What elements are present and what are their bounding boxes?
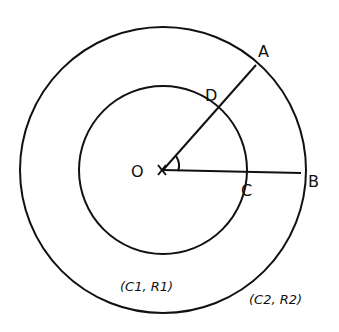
- label-inner-circle: (C1, R1): [120, 279, 173, 294]
- angle-arc: [176, 156, 179, 171]
- label-C: C: [241, 181, 252, 200]
- label-B: B: [308, 172, 319, 191]
- label-D: D: [205, 86, 217, 105]
- concentric-circles-diagram: O A B C D (C1, R1) (C2, R2): [0, 0, 339, 332]
- label-O: O: [131, 162, 144, 181]
- label-A: A: [258, 42, 269, 61]
- segment-OB: [163, 170, 301, 173]
- label-outer-circle: (C2, R2): [249, 292, 302, 307]
- segment-OA: [163, 65, 256, 170]
